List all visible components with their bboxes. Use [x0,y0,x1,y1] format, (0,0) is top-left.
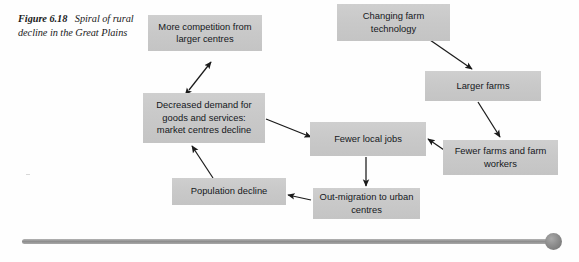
arrow-population-decline-decreased-demand [192,146,213,178]
horizontal-scrollbar-thumb[interactable] [545,233,562,250]
node-fewer-local-jobs[interactable]: Fewer local jobs [310,122,426,156]
node-more-competition[interactable]: More competition from larger centres [148,15,262,51]
node-fewer-farms[interactable]: Fewer farms and farm workers [443,140,558,175]
node-label: Changing farm technology [341,10,446,35]
node-label: Out-migration to urban centres [317,191,416,216]
arrow-out-migration-population-decline [288,195,311,200]
horizontal-scrollbar-track[interactable] [22,239,558,244]
arrow-layer [0,0,579,262]
scan-speck-left [26,174,30,175]
node-label: Fewer farms and farm workers [447,145,554,170]
arrow-larger-farms-fewer-farms [478,102,500,137]
arrow-decreased-demand-fewer-local-jobs [266,119,311,137]
node-label: Decreased demand for goods and services:… [147,99,261,136]
node-label: More competition from larger centres [152,21,258,46]
node-population-decline[interactable]: Population decline [172,178,286,205]
arrow-changing-farm-tech-larger-farms [430,40,472,69]
arrow-more-competition-decreased-demand [189,62,211,90]
node-out-migration[interactable]: Out-migration to urban centres [313,188,420,219]
figure-caption-number: Figure 6.18 [18,13,67,24]
node-label: Fewer local jobs [314,133,422,145]
node-changing-farm-technology[interactable]: Changing farm technology [337,4,450,41]
node-label: Larger farms [429,80,537,92]
node-label: Population decline [176,185,282,197]
node-decreased-demand[interactable]: Decreased demand for goods and services:… [143,93,265,143]
node-larger-farms[interactable]: Larger farms [425,71,541,101]
figure-canvas: Figure 6.18 Spiral of rural decline in t… [0,0,579,262]
figure-caption: Figure 6.18 Spiral of rural decline in t… [18,12,138,39]
